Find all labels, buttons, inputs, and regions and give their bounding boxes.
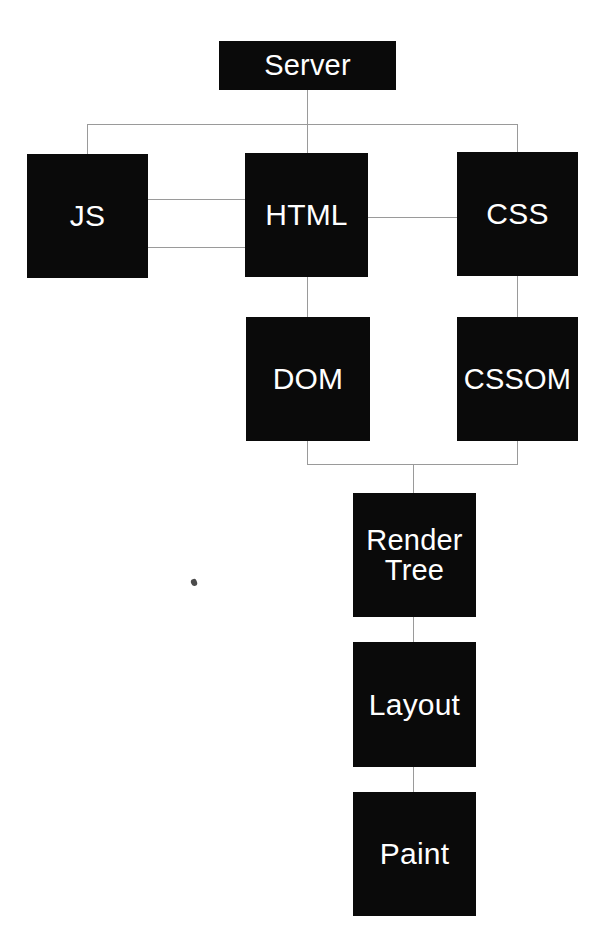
node-html[interactable]: HTML [245, 153, 368, 277]
node-js-label: JS [68, 200, 107, 231]
connector-html-to-dom [307, 277, 308, 318]
connector-dom-to-merge [307, 441, 308, 464]
diagram-canvas: Server JS HTML CSS DOM CSSOM Render Tree… [0, 0, 603, 946]
node-css-label: CSS [484, 198, 550, 229]
node-render-tree-label: Render Tree [364, 525, 464, 585]
node-paint-label: Paint [378, 838, 451, 869]
connector-js-to-html-lower [147, 247, 246, 248]
scan-artifact-speck [190, 578, 198, 587]
node-cssom[interactable]: CSSOM [457, 317, 578, 441]
connector-merge-to-render-tree [413, 464, 414, 494]
connector-js-to-html-upper [147, 199, 246, 200]
connector-server-to-css [517, 124, 518, 153]
connector-render-tree-to-layout [413, 617, 414, 643]
connector-cssom-to-merge [517, 441, 518, 464]
node-render-tree[interactable]: Render Tree [353, 493, 476, 617]
node-layout[interactable]: Layout [353, 642, 476, 767]
node-dom-label: DOM [271, 363, 346, 394]
node-cssom-label: CSSOM [462, 364, 573, 394]
node-layout-label: Layout [367, 689, 462, 720]
connector-layout-to-paint [413, 767, 414, 793]
connector-html-to-css [367, 217, 458, 218]
node-html-label: HTML [263, 199, 349, 230]
connector-server-to-html [307, 89, 308, 153]
node-dom[interactable]: DOM [246, 317, 370, 441]
node-server-label: Server [262, 50, 353, 80]
connector-server-to-js [87, 124, 88, 155]
node-paint[interactable]: Paint [353, 792, 476, 916]
node-js[interactable]: JS [27, 154, 148, 278]
connector-css-to-cssom [517, 276, 518, 318]
connector-server-bus [87, 124, 518, 125]
node-css[interactable]: CSS [457, 152, 578, 276]
node-server[interactable]: Server [219, 41, 396, 90]
